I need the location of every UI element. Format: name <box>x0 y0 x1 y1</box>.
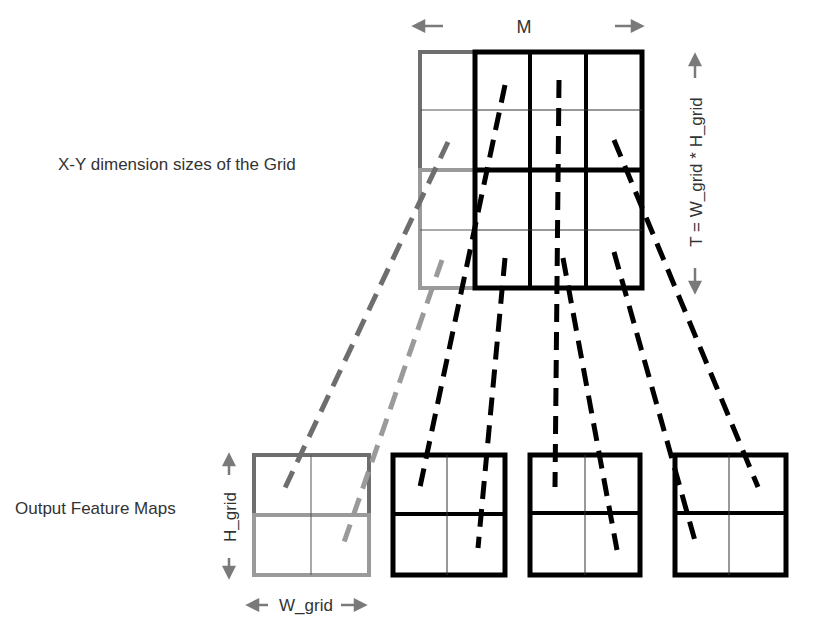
output-map-2 <box>393 455 505 575</box>
w-grid-label: W_grid <box>279 596 333 615</box>
input-grid <box>420 52 642 288</box>
output-map-4 <box>675 455 786 575</box>
output-label: Output Feature Maps <box>15 499 176 518</box>
m-label: M <box>517 17 532 37</box>
output-map-1 <box>254 455 369 575</box>
h-grid-label: H_grid <box>221 492 240 542</box>
diagram-canvas: M T = W_grid * H_grid X-Y dimension size… <box>0 0 814 639</box>
output-map-3 <box>530 455 640 575</box>
t-label: T = W_grid * H_grid <box>687 97 706 246</box>
grid-label: X-Y dimension sizes of the Grid <box>58 155 296 174</box>
